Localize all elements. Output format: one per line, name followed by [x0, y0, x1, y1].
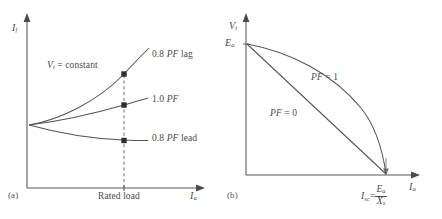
label-08-pf-lag: 0.8 PF lag [152, 49, 193, 59]
x-axis [246, 172, 420, 179]
y-axis [243, 13, 250, 175]
ea-intercept-label: Ea [225, 37, 235, 48]
panel-b: Vt Ea Ia PF = 1 PF = 0 Isc=EaXs (b) [221, 0, 442, 219]
marker-lead [121, 138, 126, 143]
panel-b-tag: (b) [227, 190, 238, 200]
isc-fraction: EaXs [375, 185, 386, 207]
rated-load-tick-label: Rated load [98, 191, 140, 201]
label-pf-equals-0: PF = 0 [270, 108, 297, 118]
panel-a-tag: (a) [8, 190, 18, 200]
panel-b-x-axis-label: Ia [409, 181, 416, 192]
panel-b-y-axis-label: Vt [229, 20, 237, 31]
marker-lag [121, 71, 126, 76]
panel-a-plot [0, 0, 221, 219]
y-axis [24, 13, 31, 188]
curve-08-pf-lead [29, 125, 148, 141]
panel-a: If Ia Vt = constant 0.8 PF lag 1.0 PF 0.… [0, 0, 221, 219]
vt-constant-annotation: Vt = constant [47, 60, 98, 70]
label-pf-equals-1: PF = 1 [311, 72, 338, 82]
panel-a-y-axis-label: If [12, 22, 17, 33]
panel-a-x-axis-label: Ia [190, 190, 197, 201]
label-08-pf-lead: 0.8 PF lead [152, 133, 197, 143]
isc-formula-label: Isc=EaXs [361, 185, 387, 207]
marker-unity [121, 102, 126, 107]
curve-pf-0 [247, 44, 386, 174]
figure-container: If Ia Vt = constant 0.8 PF lag 1.0 PF 0.… [0, 0, 442, 219]
label-10-pf: 1.0 PF [152, 94, 178, 104]
